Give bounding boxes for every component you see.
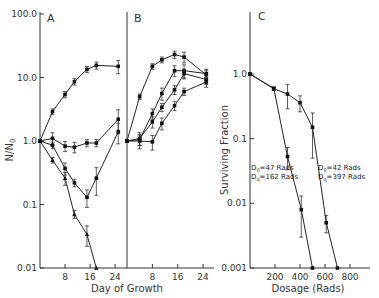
data-point: [138, 139, 142, 143]
data-point: [204, 80, 208, 84]
panel-a-x-tick-label: 24: [109, 272, 121, 282]
data-point: [63, 144, 67, 148]
data-point: [182, 90, 186, 94]
panel-a-y-tick-label: 0.1: [23, 200, 37, 210]
panel-c-axes: C Surviving Fraction Dosage (Rads): [219, 10, 370, 294]
data-point: [298, 101, 302, 105]
panel-a-x-tick-label: 8: [62, 272, 68, 282]
data-point: [182, 72, 186, 76]
data-point: [182, 55, 186, 59]
panel-c-x-tick-label: 400: [291, 272, 308, 282]
panel-c-x-tick-label: 800: [341, 272, 358, 282]
data-point: [151, 120, 155, 124]
series-line-b-3: [127, 74, 206, 141]
data-point: [95, 176, 99, 180]
data-point: [272, 87, 276, 91]
data-point: [116, 117, 120, 121]
data-point: [63, 167, 67, 171]
figure: A N/N0 B Day of Growth C Surviving Fract…: [0, 0, 379, 298]
panel-c-x-title: Dosage (Rads): [271, 283, 344, 294]
data-point: [173, 69, 177, 73]
data-point: [51, 137, 55, 141]
annotation-d0: D0=42 Rads: [318, 164, 361, 173]
series-line-a-3: [40, 132, 118, 198]
panel-c-y-title: Surviving Fraction: [219, 105, 230, 195]
panel-a-y-tick-label: 0.01: [17, 263, 37, 273]
panel-a-y-tick-label: 100.0: [11, 9, 37, 19]
data-point: [173, 104, 177, 108]
chart-marks: 816240.010.11.010.0100.08162420040060080…: [11, 9, 365, 282]
data-point: [311, 125, 315, 129]
panel-b-label: B: [134, 12, 142, 25]
data-point: [73, 80, 77, 84]
annotation-dq: Dq=162 Rads: [251, 173, 298, 183]
data-point: [73, 181, 77, 185]
panel-c-y-tick-label: 0.1: [233, 134, 247, 144]
data-point: [116, 130, 120, 134]
data-point: [63, 93, 67, 97]
panel-b-x-tick-label: 24: [197, 272, 209, 282]
data-point: [286, 155, 290, 159]
data-point: [173, 53, 177, 57]
data-point: [311, 266, 315, 270]
data-point: [160, 58, 164, 62]
data-point: [151, 65, 155, 69]
data-point: [299, 208, 303, 212]
panel-c-label: C: [258, 10, 266, 23]
data-point: [85, 141, 89, 145]
panel-c-x-tick-label: 600: [316, 272, 333, 282]
data-point: [160, 105, 164, 109]
data-point: [85, 195, 89, 199]
panel-a-x-tick-label: 16: [84, 272, 96, 282]
data-point: [51, 143, 55, 147]
panel-b-x-tick-label: 8: [149, 272, 155, 282]
panel-a-label: A: [47, 12, 55, 25]
data-point: [151, 112, 155, 116]
panel-c-y-tick-label: 1.0: [233, 69, 248, 79]
data-point: [286, 92, 290, 96]
data-point: [85, 68, 89, 72]
data-point: [95, 64, 99, 68]
data-point: [73, 145, 77, 149]
data-point: [204, 72, 208, 76]
data-point: [151, 140, 155, 144]
annotation-d0: D0=47 Rads: [251, 164, 294, 173]
data-point: [160, 92, 164, 96]
panel-a-y-title: N/N0: [4, 139, 17, 162]
ab-x-title: Day of Growth: [91, 283, 163, 294]
series-line-b-2: [127, 71, 206, 141]
data-point: [72, 212, 76, 216]
data-point: [160, 121, 164, 125]
panel-b-x-tick-label: 16: [172, 272, 184, 282]
annotation-dq: Dq=397 Rads: [318, 173, 365, 183]
series-line-a-4: [40, 141, 96, 268]
data-point: [138, 95, 142, 99]
panel-c-x-tick-label: 200: [266, 272, 283, 282]
series-line-a-2: [40, 119, 118, 147]
data-point: [95, 141, 99, 145]
data-point: [173, 88, 177, 92]
data-point: [336, 266, 340, 270]
data-point: [116, 65, 120, 69]
data-point: [248, 72, 252, 76]
panel-c-y-tick-label: 0.01: [227, 198, 247, 208]
panel-a-y-tick-label: 1.0: [23, 136, 38, 146]
panel-a-y-tick-label: 10.0: [17, 73, 37, 83]
data-point: [324, 221, 328, 225]
series-line-a-1: [40, 65, 118, 141]
data-point: [51, 110, 55, 114]
data-point: [125, 139, 129, 143]
panel-c-y-tick-label: 0.001: [221, 263, 247, 273]
